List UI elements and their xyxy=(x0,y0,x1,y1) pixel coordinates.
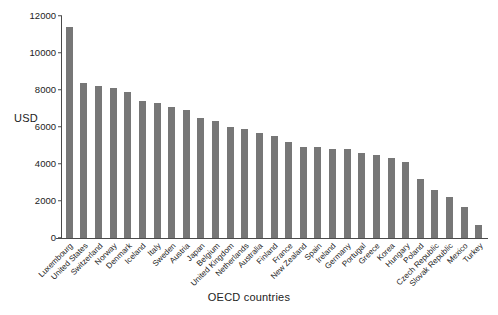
bar-slot xyxy=(442,16,457,238)
bar-slot xyxy=(413,16,428,238)
y-tick: 12000 xyxy=(30,11,62,21)
bar xyxy=(80,83,87,238)
bar-slot xyxy=(179,16,194,238)
bar xyxy=(431,190,438,238)
bar-slot xyxy=(428,16,443,238)
bar xyxy=(110,88,117,238)
bar-slot xyxy=(398,16,413,238)
bar xyxy=(197,118,204,238)
bar xyxy=(271,136,278,238)
bar xyxy=(417,179,424,238)
bar-slot xyxy=(208,16,223,238)
bar xyxy=(66,27,73,238)
plot-area xyxy=(62,16,486,238)
bar-slot xyxy=(223,16,238,238)
y-tick-label: 10000 xyxy=(30,48,58,58)
bar-slot xyxy=(267,16,282,238)
bar-slot xyxy=(472,16,487,238)
y-tick: 2000 xyxy=(35,196,62,206)
bar xyxy=(285,142,292,238)
bar xyxy=(373,155,380,238)
bar-slot xyxy=(281,16,296,238)
bar-slot xyxy=(311,16,326,238)
bar-slot xyxy=(340,16,355,238)
bar-slot xyxy=(77,16,92,238)
bar-slot xyxy=(238,16,253,238)
y-tick: 10000 xyxy=(30,48,62,58)
bar xyxy=(124,92,131,238)
bar-slot xyxy=(62,16,77,238)
bar-slot xyxy=(91,16,106,238)
bar xyxy=(475,225,482,238)
bar-slot xyxy=(355,16,370,238)
bar-slot xyxy=(457,16,472,238)
bar-series xyxy=(62,16,486,238)
bar xyxy=(344,149,351,238)
bar-slot xyxy=(369,16,384,238)
x-axis-title: OECD countries xyxy=(0,291,498,303)
bar xyxy=(227,127,234,238)
x-axis-spine xyxy=(56,238,488,239)
bar xyxy=(461,207,468,238)
bar-slot xyxy=(252,16,267,238)
y-tick: 4000 xyxy=(35,159,62,169)
bar-slot xyxy=(121,16,136,238)
y-tick: 6000 xyxy=(35,122,62,132)
bar-slot xyxy=(164,16,179,238)
bar-slot xyxy=(106,16,121,238)
bar-slot xyxy=(150,16,165,238)
bar xyxy=(212,121,219,238)
bar-slot xyxy=(194,16,209,238)
y-tick-label: 8000 xyxy=(35,85,58,95)
bar-slot xyxy=(384,16,399,238)
bar xyxy=(95,86,102,238)
bar xyxy=(154,103,161,238)
bar xyxy=(139,101,146,238)
bar xyxy=(388,158,395,238)
bar xyxy=(358,153,365,238)
bar xyxy=(402,162,409,238)
bar-slot xyxy=(135,16,150,238)
bar-slot xyxy=(325,16,340,238)
bar xyxy=(168,107,175,238)
bar xyxy=(300,147,307,238)
bar xyxy=(183,110,190,238)
bar xyxy=(329,149,336,238)
bar xyxy=(314,147,321,238)
bar xyxy=(446,197,453,238)
bar-chart: USD 020004000600080001000012000 Luxembou… xyxy=(0,0,498,315)
bar xyxy=(241,129,248,238)
y-tick-label: 6000 xyxy=(35,122,58,132)
y-tick-label: 2000 xyxy=(35,196,58,206)
y-tick-label: 12000 xyxy=(30,11,58,21)
y-tick: 8000 xyxy=(35,85,62,95)
y-tick-label: 4000 xyxy=(35,159,58,169)
bar xyxy=(256,133,263,238)
bar-slot xyxy=(296,16,311,238)
